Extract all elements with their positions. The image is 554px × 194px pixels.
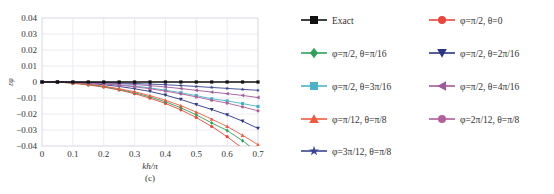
legend-label: φ=π/2, θ=π/16 bbox=[332, 49, 387, 59]
legend-label: φ=π/2, θ=2π/16 bbox=[460, 49, 519, 59]
svg-text:(c): (c) bbox=[145, 173, 155, 183]
diamond-marker-icon bbox=[300, 47, 332, 61]
circle-marker-icon bbox=[428, 113, 460, 127]
legend-label: Exact bbox=[332, 16, 354, 26]
triangle-up-marker-icon bbox=[300, 113, 332, 127]
svg-text:0.4: 0.4 bbox=[160, 149, 172, 159]
legend-label: φ=π/2, θ=0 bbox=[460, 16, 502, 26]
square-marker-icon bbox=[300, 80, 332, 94]
legend-label: φ=π/2, θ=4π/16 bbox=[460, 82, 519, 92]
line-chart: 0.040.030.020.010−0.01−0.02−0.03−0.0400.… bbox=[0, 0, 290, 194]
star-marker-icon bbox=[300, 145, 332, 159]
svg-text:−0.03: −0.03 bbox=[16, 125, 37, 135]
svg-text:0.1: 0.1 bbox=[67, 149, 78, 159]
svg-text:0.02: 0.02 bbox=[21, 45, 37, 55]
figure: 0.040.030.020.010−0.01−0.02−0.03−0.0400.… bbox=[0, 0, 554, 194]
legend-item-series-2: φ=π/2, θ=π/16 bbox=[300, 47, 387, 61]
svg-text:−0.04: −0.04 bbox=[16, 141, 37, 151]
legend-item-series-5: φ=π/2, θ=4π/16 bbox=[428, 80, 519, 94]
svg-text:0.5: 0.5 bbox=[191, 149, 203, 159]
svg-text:0: 0 bbox=[40, 149, 45, 159]
legend-item-series-6: φ=π/12, θ=π/8 bbox=[300, 113, 387, 127]
svg-text:0: 0 bbox=[33, 77, 38, 87]
legend-item-series-4: φ=π/2, θ=3π/16 bbox=[300, 80, 391, 94]
svg-text:−0.01: −0.01 bbox=[16, 93, 37, 103]
legend-label: φ=π/2, θ=3π/16 bbox=[332, 82, 391, 92]
svg-text:0.7: 0.7 bbox=[252, 149, 264, 159]
svg-text:0.04: 0.04 bbox=[21, 13, 37, 23]
svg-text:0.01: 0.01 bbox=[21, 61, 37, 71]
circle-marker-icon bbox=[428, 14, 460, 28]
legend-item-series-3: φ=π/2, θ=2π/16 bbox=[428, 47, 519, 61]
triangle-down-marker-icon bbox=[428, 47, 460, 61]
legend-label: φ=3π/12, θ=π/8 bbox=[332, 147, 391, 157]
series-0 bbox=[40, 80, 259, 83]
legend-item-exact: Exact bbox=[300, 14, 354, 28]
legend-label: φ=2π/12, θ=π/8 bbox=[460, 115, 519, 125]
svg-text:kh/π: kh/π bbox=[142, 161, 158, 171]
svg-text:−0.02: −0.02 bbox=[16, 109, 37, 119]
svg-text:0.2: 0.2 bbox=[98, 149, 109, 159]
svg-text:0.6: 0.6 bbox=[222, 149, 234, 159]
svg-text:εφ: εφ bbox=[6, 78, 15, 86]
legend-item-series-7: φ=2π/12, θ=π/8 bbox=[428, 113, 519, 127]
svg-text:0.03: 0.03 bbox=[21, 29, 37, 39]
legend-item-series-1: φ=π/2, θ=0 bbox=[428, 14, 502, 28]
legend-label: φ=π/12, θ=π/8 bbox=[332, 115, 387, 125]
legend-item-series-8: φ=3π/12, θ=π/8 bbox=[300, 145, 391, 159]
svg-text:0.3: 0.3 bbox=[129, 149, 141, 159]
square-marker-icon bbox=[300, 14, 332, 28]
triangle-left-marker-icon bbox=[428, 80, 460, 94]
